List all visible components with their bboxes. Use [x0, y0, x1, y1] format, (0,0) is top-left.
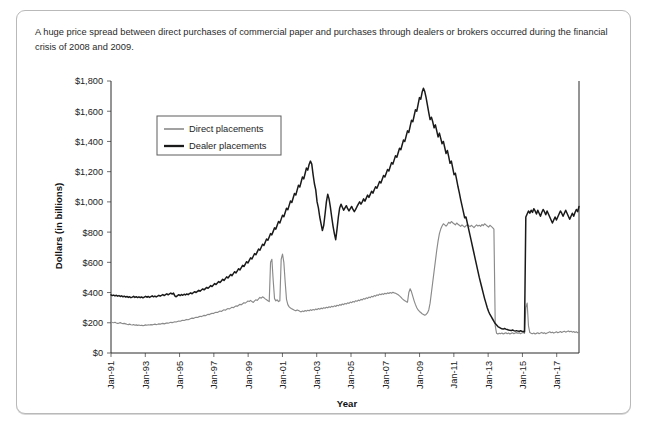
y-tick-label: $200: [83, 318, 103, 328]
x-tick-label: Jan-17: [552, 361, 562, 389]
x-tick-label: Jan-11: [449, 361, 459, 388]
y-tick-label: $1,400: [75, 137, 103, 147]
y-axis-ticks: $0$200$400$600$800$1,000$1,200$1,400$1,6…: [75, 76, 111, 358]
y-axis-title: Dollars (in billions): [53, 183, 64, 269]
x-tick-label: Jan-97: [209, 361, 219, 389]
chart-plot-area: Dollars (in billions) Year $0$200$400$60…: [17, 11, 632, 415]
x-axis-title: Year: [337, 398, 358, 409]
x-tick-label: Jan-07: [381, 361, 391, 389]
y-tick-label: $400: [83, 288, 103, 298]
x-tick-label: Jan-03: [312, 361, 322, 389]
y-tick-label: $800: [83, 228, 103, 238]
y-tick-label: $1,000: [75, 197, 103, 207]
x-tick-label: Jan-91: [106, 361, 116, 389]
chart-legend: Direct placementsDealer placements: [157, 116, 281, 155]
x-tick-label: Jan-99: [244, 361, 254, 389]
x-tick-label: Jan-13: [484, 361, 494, 389]
y-tick-label: $600: [83, 258, 103, 268]
x-tick-label: Jan-09: [415, 361, 425, 389]
x-axis-ticks: Jan-91Jan-93Jan-95Jan-97Jan-99Jan-01Jan-…: [106, 353, 562, 389]
x-tick-label: Jan-05: [346, 361, 356, 389]
y-tick-label: $1,200: [75, 167, 103, 177]
legend-label-direct: Direct placements: [189, 124, 264, 134]
x-tick-label: Jan-15: [518, 361, 528, 389]
x-tick-label: Jan-01: [278, 361, 288, 389]
legend-label-dealer: Dealer placements: [189, 141, 267, 151]
x-tick-label: Jan-93: [141, 361, 151, 389]
y-tick-label: $0: [93, 348, 103, 358]
y-tick-label: $1,600: [75, 107, 103, 117]
x-tick-label: Jan-95: [175, 361, 185, 389]
figure-frame: A huge price spread between direct purch…: [16, 10, 631, 414]
y-tick-label: $1,800: [75, 76, 103, 86]
series-line-direct: [111, 222, 579, 335]
line-chart: Dollars (in billions) Year $0$200$400$60…: [17, 11, 632, 415]
